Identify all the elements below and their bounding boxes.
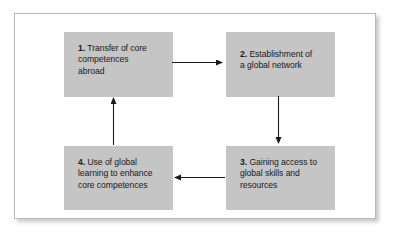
node-2-line-2: a global network bbox=[240, 60, 327, 71]
diagram-frame: 1. Transfer of core competences abroad 2… bbox=[14, 13, 376, 219]
node-3-text: 3. Gaining access to global skills and r… bbox=[240, 157, 327, 191]
node-4-line-1: 4. Use of global bbox=[78, 157, 165, 168]
node-3-number: 3. bbox=[240, 157, 247, 167]
diagram-node-4: 4. Use of global learning to enhance cor… bbox=[64, 146, 173, 210]
node-1-line-2: competences bbox=[78, 54, 165, 65]
node-2-line-1: 2. Establishment of bbox=[240, 49, 327, 60]
node-4-number: 4. bbox=[78, 157, 85, 167]
node-3-line-2: global skills and bbox=[240, 168, 327, 179]
node-3-line-3: resources bbox=[240, 180, 327, 191]
node-2-number: 2. bbox=[240, 49, 247, 59]
diagram-node-3: 3. Gaining access to global skills and r… bbox=[226, 146, 335, 210]
node-1-line-1: 1. Transfer of core bbox=[78, 43, 165, 54]
node-2-text: 2. Establishment of a global network bbox=[240, 49, 327, 72]
node-1-line-1-text: Transfer of core bbox=[87, 43, 147, 53]
node-4-text: 4. Use of global learning to enhance cor… bbox=[78, 157, 165, 191]
node-1-text: 1. Transfer of core competences abroad bbox=[78, 43, 165, 77]
node-4-line-3: core competences bbox=[78, 180, 165, 191]
diagram-node-2: 2. Establishment of a global network bbox=[226, 32, 335, 97]
node-1-number: 1. bbox=[78, 43, 85, 53]
node-4-line-1-text: Use of global bbox=[87, 157, 137, 167]
node-4-line-2: learning to enhance bbox=[78, 168, 165, 179]
node-3-line-1-text: Gaining access to bbox=[249, 157, 316, 167]
node-2-line-1-text: Establishment of bbox=[249, 49, 312, 59]
diagram-node-1: 1. Transfer of core competences abroad bbox=[64, 32, 173, 97]
node-1-line-3: abroad bbox=[78, 66, 165, 77]
cycle-diagram-figure: 1. Transfer of core competences abroad 2… bbox=[0, 0, 394, 235]
node-3-line-1: 3. Gaining access to bbox=[240, 157, 327, 168]
